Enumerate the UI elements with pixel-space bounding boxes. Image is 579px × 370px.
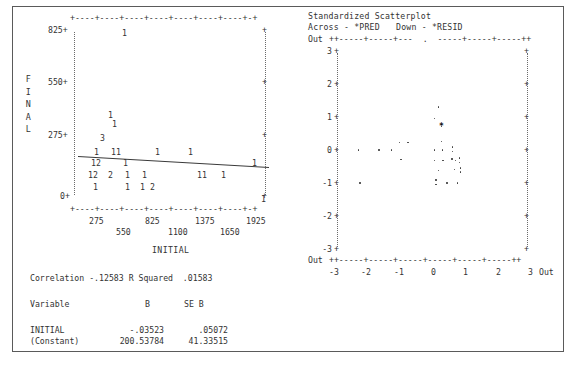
right-plot-dot <box>391 149 393 151</box>
coef-header-variable: Variable <box>30 299 69 309</box>
left-y-tick-0: 0+ <box>60 192 70 201</box>
right-plot-right-tick-neg1: + <box>524 179 529 188</box>
right-plot-dot <box>451 158 453 160</box>
left-plot-count-cell: 1 <box>112 120 117 129</box>
left-plot-count-cell: 1 <box>122 29 127 38</box>
left-plot-count-cell: 12 <box>88 171 98 180</box>
left-plot-right-tick-550: + <box>262 78 267 87</box>
left-plot-right-tick-825: + <box>262 26 267 35</box>
right-plot-dot <box>435 179 437 181</box>
right-y-tick-0: 0 <box>316 146 332 155</box>
right-plot-dot <box>446 182 448 184</box>
right-plot-dot <box>459 157 461 159</box>
left-plot-count-cell: 12 <box>91 159 101 168</box>
left-x-tick-1100: 1100 <box>168 228 188 237</box>
left-plot-count-cell: 1 <box>188 148 193 157</box>
left-y-tick-825-label: 825 <box>48 25 63 35</box>
left-plot-count-cell: 1 <box>221 171 226 180</box>
right-plot-dot <box>399 142 401 144</box>
r-squared-label: R Squared <box>129 273 173 283</box>
right-x-tick-neg1: -1 <box>394 268 404 277</box>
correlation-label: Correlation <box>30 273 84 283</box>
right-plot-dot <box>358 149 360 151</box>
coef-header-b: B <box>145 298 150 311</box>
right-plot-top-axis: ++-----+-----+--- . -----+-----+-----++ <box>329 35 531 44</box>
left-x-tick-1650: 1650 <box>220 228 240 237</box>
left-x-tick-275: 275 <box>89 217 104 226</box>
right-x-tick-2: 2 <box>496 268 501 277</box>
right-y-tick-1: 1 <box>316 113 332 122</box>
right-standardized-scatterplot: Standardized Scatterplot Across - *PRED … <box>300 6 564 352</box>
right-plot-dot <box>407 142 409 144</box>
left-x-tick-1375: 1375 <box>195 217 215 226</box>
left-plot-count-cell: 1 <box>94 148 99 157</box>
right-plot-dot <box>452 151 454 153</box>
coef-header-se-b: SE B <box>184 298 204 311</box>
left-plot-y-axis <box>74 32 75 195</box>
right-plot-right-tick-neg3: + <box>524 245 529 254</box>
right-x-tick-0: 0 <box>431 268 436 277</box>
right-plot-dot <box>434 149 436 151</box>
correlation-line: Correlation -.12583 R Squared .01583 <box>30 272 212 285</box>
right-x-tick-1: 1 <box>463 268 468 277</box>
right-plot-right-tick-2: + <box>524 80 529 89</box>
right-y-tick-neg1: -1 <box>312 179 332 188</box>
right-plot-right-tick-neg2: + <box>524 212 529 221</box>
right-plot-dot <box>400 159 402 161</box>
left-y-axis-title-text: FINAL <box>22 74 33 137</box>
left-plot-right-tick-275: + <box>262 131 267 140</box>
left-plot-count-cell: 1 <box>142 171 147 180</box>
left-x-tick-550: 550 <box>116 228 131 237</box>
right-plot-overplot-marker: * <box>439 123 444 131</box>
left-plot-count-cell: 1 <box>140 183 145 192</box>
coef-table-header: Variable <box>30 298 69 311</box>
right-plot-dot <box>442 149 444 151</box>
left-plot-count-cell: 1 <box>123 159 128 168</box>
coef-row-constant-se-b: 41.33515 <box>172 335 228 348</box>
left-plot-count-cell: 1 <box>125 183 130 192</box>
left-y-tick-275-label: 275 <box>48 130 63 140</box>
right-y-tick-neg2: -2 <box>312 212 332 221</box>
right-plot-dot <box>434 118 436 120</box>
left-plot-count-cell: 3 <box>100 134 105 143</box>
right-plot-dot <box>435 184 437 186</box>
right-plot-dot <box>378 149 380 151</box>
left-x-tick-825: 825 <box>145 217 160 226</box>
right-plot-dot <box>455 160 457 162</box>
right-x-tick-3: 3 <box>528 268 533 277</box>
correlation-value: -.12583 <box>89 273 124 283</box>
spss-output-page: +----+----+----+----+----+----+----+-+ 8… <box>0 0 579 370</box>
right-plot-out-label-top: Out <box>308 35 323 44</box>
left-plot-count-cell: 1 <box>261 195 266 204</box>
right-y-tick-2: 2 <box>316 80 332 89</box>
left-plot-bottom-axis: +----+----+----+----+----+----+----+-+ <box>70 205 257 214</box>
left-plot-count-cell: 11 <box>197 171 207 180</box>
left-y-tick-275: 275+ <box>48 131 68 140</box>
left-plot-count-cell: 1 <box>125 171 130 180</box>
right-plot-right-tick-1: + <box>524 113 529 122</box>
right-plot-right-tick-0: + <box>524 146 529 155</box>
r-squared-value: .01583 <box>183 273 213 283</box>
left-plot-count-cell: 2 <box>108 171 113 180</box>
left-y-tick-0-label: 0 <box>60 191 65 201</box>
left-plot-count-cell: 11 <box>111 148 121 157</box>
left-y-tick-825: 825+ <box>48 26 68 35</box>
right-plot-dot <box>438 106 440 108</box>
right-x-tick-neg3: -3 <box>329 268 339 277</box>
left-plot-count-cell: 2 <box>150 183 155 192</box>
right-y-tick-3: 3 <box>316 47 332 56</box>
left-scatterplot: +----+----+----+----+----+----+----+-+ 8… <box>12 6 297 352</box>
right-plot-dot <box>452 146 454 148</box>
coef-row-constant-variable: (Constant) <box>30 335 79 348</box>
right-plot-dot <box>442 160 444 162</box>
right-plot-out-label-bottom-right: Out <box>539 268 554 277</box>
right-x-tick-neg2: -2 <box>361 268 371 277</box>
right-plot-across-label: Across - *PRED <box>308 23 380 32</box>
left-y-tick-550: 550+ <box>48 78 68 87</box>
right-plot-right-tick-3: + <box>524 47 529 56</box>
right-plot-dot <box>460 171 462 173</box>
left-y-axis-title: FINAL <box>22 74 32 137</box>
right-plot-dot <box>434 160 436 162</box>
right-plot-dot <box>441 141 443 143</box>
right-plot-dot <box>454 169 456 171</box>
